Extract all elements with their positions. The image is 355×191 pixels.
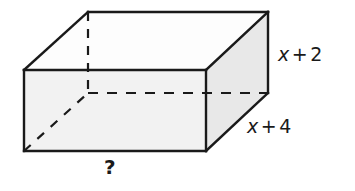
depth-label-constant: 4 [279,115,292,137]
depth-label: x+4 [247,117,292,136]
width-label: ? [104,157,116,177]
height-label: x+2 [278,45,323,64]
height-label-variable: x [278,43,290,65]
height-label-operator: + [290,43,310,65]
rectangular-prism-figure [0,0,355,191]
depth-label-variable: x [247,115,259,137]
height-label-constant: 2 [310,43,323,65]
face-front [24,70,206,151]
depth-label-operator: + [259,115,279,137]
